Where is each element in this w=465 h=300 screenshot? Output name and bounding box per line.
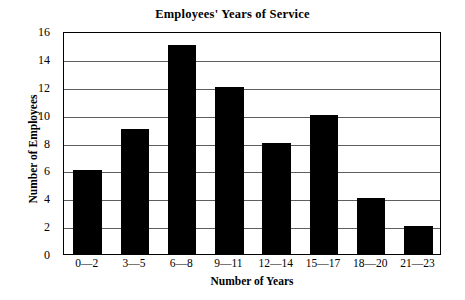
bar bbox=[404, 226, 432, 254]
chart-figure: Employees' Years of Service Number of Em… bbox=[0, 0, 465, 300]
y-tick-label: 4 bbox=[44, 192, 50, 207]
x-tick-label: 18—20 bbox=[353, 257, 388, 269]
x-axis-title: Number of Years bbox=[63, 275, 441, 287]
y-axis-tick-labels: 0246810121416 bbox=[0, 32, 57, 255]
x-tick-label: 9—11 bbox=[214, 257, 242, 269]
y-tick-label: 12 bbox=[38, 80, 50, 95]
bar bbox=[215, 87, 243, 254]
x-tick-label: 3—5 bbox=[122, 257, 145, 269]
x-tick-label: 6—8 bbox=[170, 257, 193, 269]
y-tick-label: 14 bbox=[38, 52, 50, 67]
x-tick-label: 15—17 bbox=[306, 257, 341, 269]
plot-area bbox=[63, 32, 441, 255]
y-tick-label: 16 bbox=[38, 25, 50, 40]
bar bbox=[168, 45, 196, 254]
x-tick-label: 12—14 bbox=[258, 257, 293, 269]
bar bbox=[121, 129, 149, 254]
chart-title: Employees' Years of Service bbox=[0, 7, 465, 22]
y-tick-label: 2 bbox=[44, 220, 50, 235]
bar bbox=[310, 115, 338, 254]
y-tick-label: 0 bbox=[44, 248, 50, 263]
bar bbox=[262, 143, 290, 255]
x-axis-tick-labels: 0—23—56—89—1112—1415—1718—2021—23 bbox=[63, 257, 441, 275]
bar bbox=[357, 198, 385, 254]
y-tick-label: 10 bbox=[38, 108, 50, 123]
bars-layer bbox=[64, 33, 440, 254]
y-tick-label: 6 bbox=[44, 164, 50, 179]
x-tick-label: 21—23 bbox=[400, 257, 435, 269]
x-tick-label: 0—2 bbox=[75, 257, 98, 269]
y-tick-label: 8 bbox=[44, 136, 50, 151]
bar bbox=[73, 170, 101, 254]
